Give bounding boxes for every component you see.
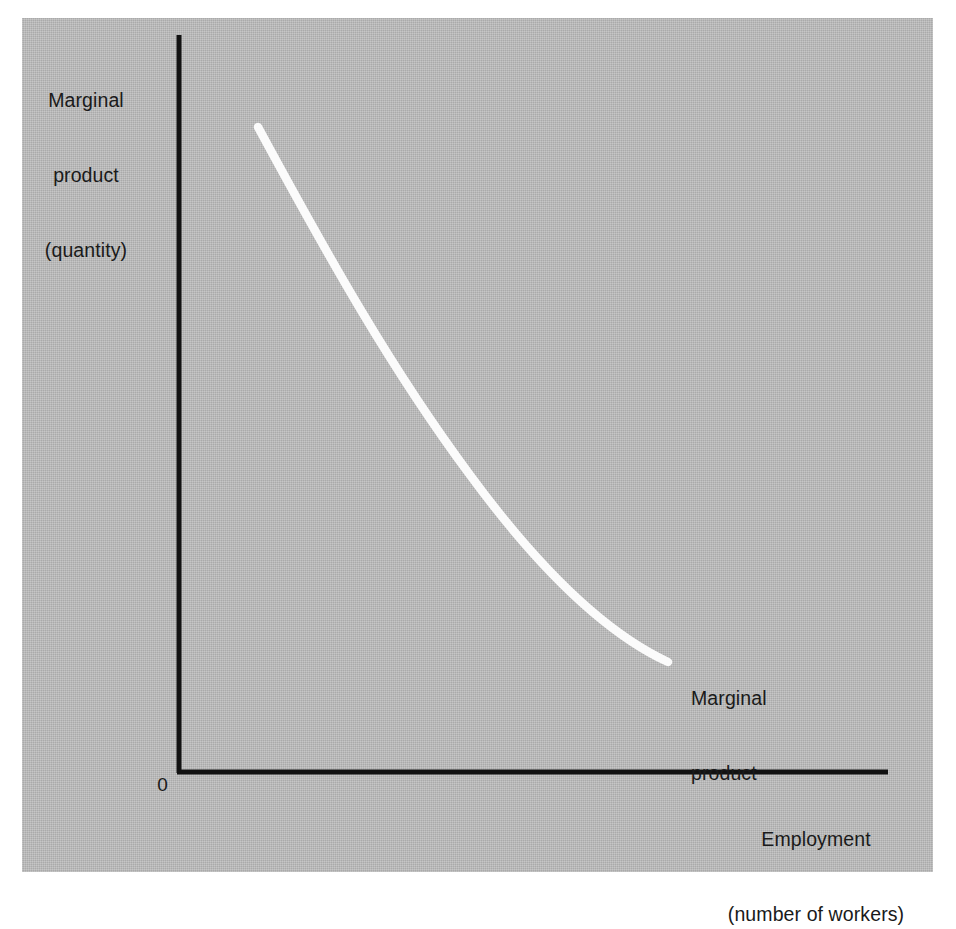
y-axis-label: Marginal product (quantity) bbox=[0, 38, 172, 288]
x-axis-label-line-1: Employment bbox=[700, 827, 932, 852]
y-axis-label-line-1: Marginal bbox=[0, 88, 172, 113]
origin-label: 0 bbox=[140, 772, 168, 797]
curve-annotation-line-1: Marginal bbox=[691, 686, 767, 711]
x-axis-label-line-2: (number of workers) bbox=[700, 902, 932, 927]
y-axis-label-line-3: (quantity) bbox=[0, 238, 172, 263]
curve-annotation: Marginal product bbox=[691, 636, 767, 811]
y-axis-label-line-2: product bbox=[0, 163, 172, 188]
curve-annotation-line-2: product bbox=[691, 761, 767, 786]
